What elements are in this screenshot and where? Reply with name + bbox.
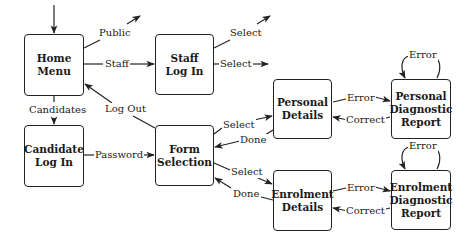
node-label: Personal — [389, 90, 452, 103]
node-label: Menu — [37, 65, 72, 78]
edge-label-personal-error: Error — [346, 92, 376, 104]
edge-label-enrolment-error: Error — [346, 182, 376, 194]
node-enrolment-details: EnrolmentDetails — [273, 170, 332, 231]
node-label: Diagnostic — [389, 103, 452, 116]
node-staff-login: StaffLog In — [155, 34, 214, 95]
node-form-selection: FormSelection — [155, 125, 214, 186]
edge-label-select-enrolment: Select — [230, 166, 264, 178]
node-enrolment-diagnostic-report: EnrolmentDiagnosticReport — [391, 170, 451, 230]
edge-label-public: Public — [98, 27, 132, 39]
edge-label-password: Password — [94, 149, 144, 161]
edge-label-done-enrolment: Done — [232, 188, 260, 200]
node-label: Log In — [24, 156, 84, 169]
edge-label-personal-self-error: Error — [408, 49, 438, 61]
node-label: Details — [271, 201, 333, 214]
flow-diagram: HomeMenu CandidateLog In StaffLog In For… — [0, 0, 472, 246]
node-label: Selection — [157, 156, 212, 169]
node-personal-details: PersonalDetails — [273, 79, 332, 139]
edge-label-done-personal: Done — [239, 134, 267, 146]
edge-label-staff: Staff — [104, 58, 130, 70]
node-label: Personal — [277, 96, 328, 109]
node-label: Form — [157, 143, 212, 156]
node-label: Candidate — [24, 143, 84, 156]
edge-label-candidates: Candidates — [28, 104, 87, 116]
edge-label-personal-correct: Correct — [345, 114, 386, 126]
edge-label-staff-select-right: Select — [219, 58, 253, 70]
node-label: Report — [389, 116, 452, 129]
node-label: Report — [389, 207, 452, 220]
edge-label-select-personal: Select — [222, 119, 256, 131]
node-label: Log In — [166, 65, 204, 78]
node-personal-diagnostic-report: PersonalDiagnosticReport — [391, 79, 451, 139]
node-label: Enrolment — [271, 188, 333, 201]
edge-label-log-out: Log Out — [104, 103, 147, 115]
node-label: Details — [277, 109, 328, 122]
edge-label-enrolment-correct: Correct — [345, 205, 386, 217]
edge-label-enrolment-self-error: Error — [408, 140, 438, 152]
edge-label-staff-select-up: Select — [229, 27, 263, 39]
node-label: Staff — [166, 52, 204, 65]
node-label: Enrolment — [389, 181, 452, 194]
node-home-menu: HomeMenu — [24, 34, 84, 96]
node-label: Home — [37, 52, 72, 65]
node-candidate-login: CandidateLog In — [24, 125, 84, 187]
node-label: Diagnostic — [389, 194, 452, 207]
